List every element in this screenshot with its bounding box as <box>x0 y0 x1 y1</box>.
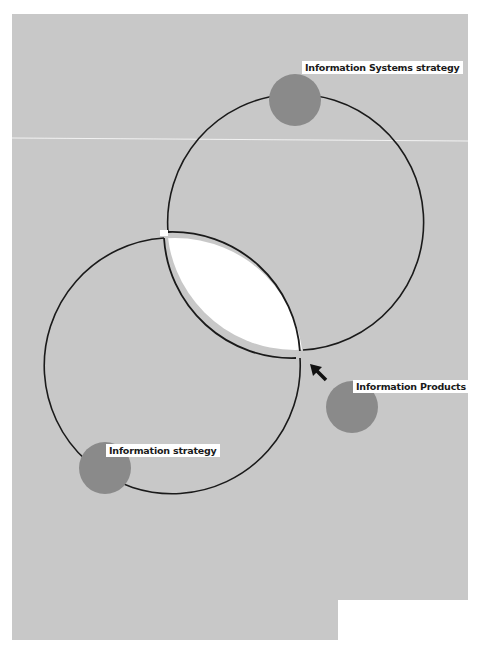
information-strategy-label: Information strategy <box>106 444 220 457</box>
information-systems-strategy-dot <box>269 74 321 126</box>
diagram-canvas <box>0 0 479 646</box>
crossing-gap-bottom <box>296 351 304 357</box>
information-systems-strategy-label: Information Systems strategy <box>302 61 463 74</box>
crossing-gap-top <box>160 230 168 236</box>
information-products-label: Information Products <box>353 380 469 393</box>
